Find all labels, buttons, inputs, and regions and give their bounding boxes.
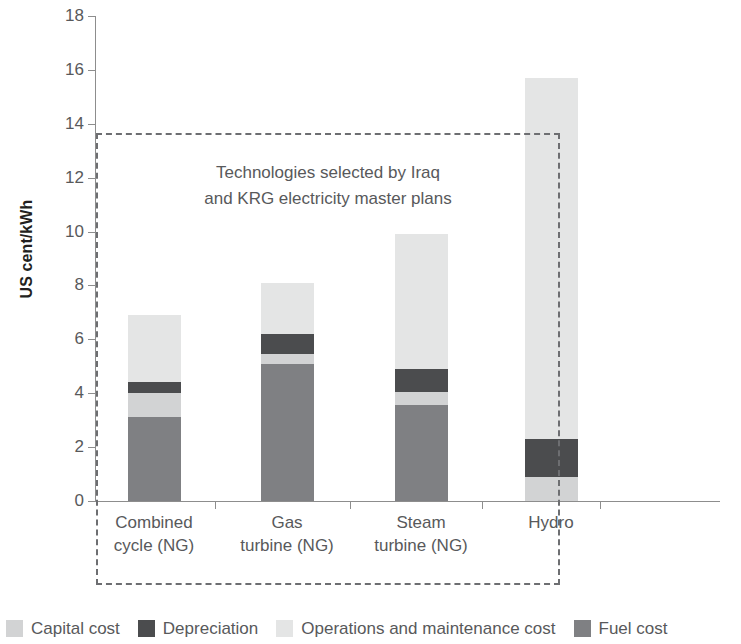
legend-label: Fuel cost: [599, 620, 668, 637]
y-axis-tick-mark: [88, 178, 96, 179]
y-axis-tick-label: 2: [44, 438, 84, 455]
y-axis-title: US cent/kWh: [18, 169, 36, 329]
legend-item-depreciation: Depreciation: [138, 620, 258, 637]
chart-figure: US cent/kWh 024681012141618 Combinedcycl…: [0, 0, 741, 644]
y-axis-tick-label: 14: [44, 115, 84, 132]
legend-item-capital-cost: Capital cost: [6, 620, 120, 637]
y-axis-tick-mark: [88, 501, 96, 502]
callout-text-line-1: Technologies selected by Iraq: [120, 160, 536, 186]
y-axis-tick-label: 0: [44, 492, 84, 509]
legend-label: Depreciation: [163, 620, 258, 637]
y-axis-tick-label: 8: [44, 276, 84, 293]
y-axis-tick-label: 16: [44, 61, 84, 78]
legend-item-fuel-cost: Fuel cost: [574, 620, 668, 637]
y-axis-tick-mark: [88, 70, 96, 71]
y-axis-tick-mark: [88, 393, 96, 394]
chart-legend: Capital costDepreciationOperations and m…: [0, 612, 741, 644]
legend-swatch-icon: [574, 620, 591, 637]
y-axis-tick-label: 12: [44, 169, 84, 186]
legend-label: Operations and maintenance cost: [301, 620, 555, 637]
legend-swatch-icon: [6, 620, 23, 637]
plot-area: US cent/kWh 024681012141618 Combinedcycl…: [0, 0, 741, 605]
legend-label: Capital cost: [31, 620, 120, 637]
y-axis-tick-mark: [88, 447, 96, 448]
y-axis-tick-label: 6: [44, 330, 84, 347]
y-axis-tick-mark: [88, 16, 96, 17]
legend-swatch-icon: [138, 620, 155, 637]
callout-text: Technologies selected by Iraq and KRG el…: [120, 160, 536, 213]
y-axis-tick-label: 18: [44, 7, 84, 24]
legend-swatch-icon: [276, 620, 293, 637]
y-axis-tick-mark: [88, 285, 96, 286]
y-axis-tick-mark: [88, 232, 96, 233]
y-axis-tick-mark: [88, 339, 96, 340]
y-axis-tick-mark: [88, 124, 96, 125]
callout-text-line-2: and KRG electricity master plans: [120, 186, 536, 212]
y-axis-tick-label: 10: [44, 223, 84, 240]
x-axis-tick-mark: [600, 501, 601, 509]
legend-item-operations-and-maintenance-cost: Operations and maintenance cost: [276, 620, 555, 637]
y-axis-tick-label: 4: [44, 384, 84, 401]
